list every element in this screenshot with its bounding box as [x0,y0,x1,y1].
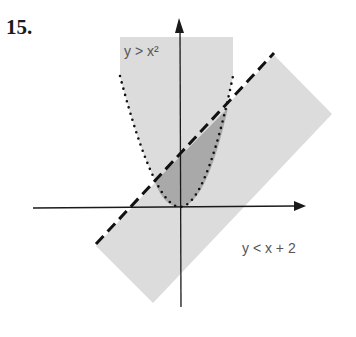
x-axis-arrow-icon [294,201,306,211]
parabola-inequality-label: y > x² [124,43,159,59]
problem-figure: 15. y > x² y < x + 2 [0,0,356,337]
inequality-graph: y > x² y < x + 2 [0,0,356,337]
line-inequality-label: y < x + 2 [242,240,296,256]
y-axis-arrow-icon [175,18,184,33]
